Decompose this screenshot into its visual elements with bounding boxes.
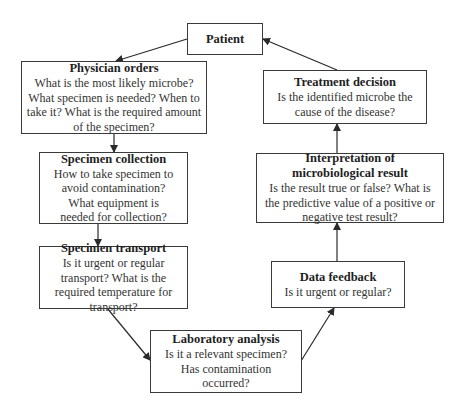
node-interpretation: Interpretation of microbiological result… (256, 153, 444, 223)
node-description: Is it urgent or regular transport? What … (44, 256, 183, 314)
node-patient: Patient (187, 23, 263, 55)
node-title: Specimen transport (61, 241, 166, 256)
node-description: Is the identified microbe the cause of t… (268, 90, 422, 119)
arrow-treatment-decision-to-patient (263, 39, 337, 70)
node-specimen-collection: Specimen collection How to take specimen… (39, 152, 188, 224)
node-title: Data feedback (300, 270, 377, 285)
node-laboratory-analysis: Laboratory analysis Is it a relevant spe… (150, 330, 302, 393)
arrow-laboratory-analysis-to-data-feedback (301, 308, 334, 361)
node-description: Is it urgent or regular? (284, 285, 391, 300)
node-description: How to take specimen to avoid contaminat… (44, 167, 183, 225)
arrow-specimen-transport-to-laboratory-analysis (107, 308, 150, 360)
node-description: Is the result true or false? What is the… (261, 181, 439, 225)
node-specimen-transport: Specimen transport Is it urgent or regul… (39, 246, 188, 309)
node-title: Treatment decision (294, 75, 396, 90)
node-treatment-decision: Treatment decision Is the identified mic… (263, 70, 427, 124)
node-title: Physician orders (69, 61, 158, 76)
node-physician-orders: Physician orders What is the most likely… (21, 61, 207, 134)
node-title: Laboratory analysis (172, 332, 279, 347)
node-data-feedback: Data feedback Is it urgent or regular? (271, 261, 405, 308)
node-title: Interpretation of microbiological result (261, 151, 439, 181)
arrow-patient-to-physician-orders (116, 39, 187, 61)
node-title: Patient (206, 32, 244, 47)
node-title: Specimen collection (61, 152, 166, 167)
node-description: Is it a relevant specimen? Has contamina… (155, 347, 297, 391)
node-description: What is the most likely microbe? What sp… (26, 76, 202, 134)
